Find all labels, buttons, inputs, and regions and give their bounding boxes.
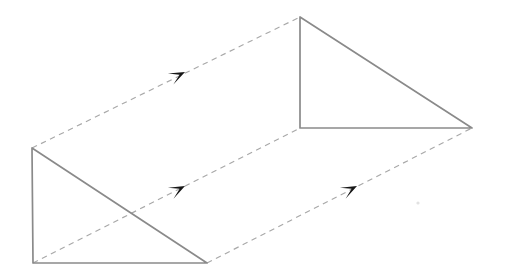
translation-vector-bottom-line	[207, 128, 472, 263]
artifacts-group	[416, 201, 419, 204]
back-triangle-outline	[300, 17, 472, 128]
diagram-canvas	[0, 0, 507, 279]
arrowhead-top	[168, 66, 188, 84]
translation-vectors-group	[32, 17, 472, 263]
scan-speck	[416, 201, 419, 204]
prism-translation-figure	[0, 0, 507, 279]
translation-vector-top-line	[32, 17, 300, 148]
front-triangle-group	[32, 148, 207, 263]
front-triangle-outline	[32, 148, 207, 263]
translation-vector-middle-line	[33, 128, 300, 263]
back-triangle-group	[300, 17, 472, 128]
arrowheads-group	[168, 66, 360, 198]
